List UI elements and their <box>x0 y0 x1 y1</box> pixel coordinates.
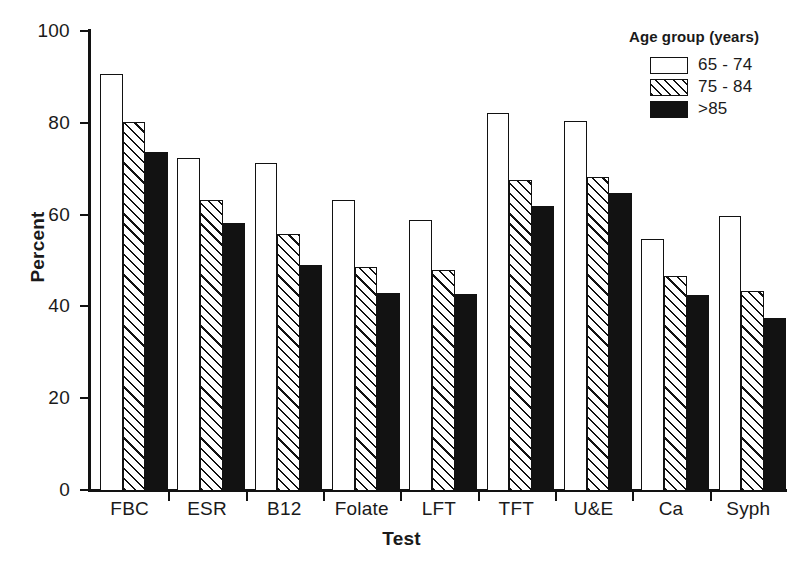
bar-fbc-series-0 <box>100 74 123 491</box>
bar-folate-series-2 <box>377 293 400 491</box>
legend-label: >85 <box>698 99 727 119</box>
bar-ue-series-0 <box>564 121 587 491</box>
bar-fbc-series-2 <box>145 152 168 491</box>
bar-ca-series-0 <box>641 239 664 491</box>
legend-label: 65 - 74 <box>698 55 752 75</box>
legend: Age group (years) 65 - 7475 - 84>85 <box>588 28 800 120</box>
x-tick-label-syph: Syph <box>688 498 803 520</box>
bar-folate-series-0 <box>332 200 355 491</box>
legend-item-2: >85 <box>650 98 800 120</box>
bar-esr-series-2 <box>223 223 246 491</box>
legend-item-1: 75 - 84 <box>650 76 800 98</box>
bar-esr-series-1 <box>200 200 223 491</box>
bar-ca-series-2 <box>687 295 710 491</box>
bar-lft-series-2 <box>455 294 478 491</box>
bar-tft-series-1 <box>509 180 532 491</box>
bar-esr-series-0 <box>177 158 200 491</box>
bar-syph-series-0 <box>719 216 742 491</box>
bar-syph-series-1 <box>741 291 764 491</box>
bar-folate-series-1 <box>355 267 378 491</box>
bar-b12-series-0 <box>255 163 278 491</box>
bar-ca-series-1 <box>664 276 687 491</box>
x-axis-label: Test <box>0 528 803 550</box>
bar-tft-series-2 <box>532 206 555 491</box>
legend-swatch-open <box>650 57 688 74</box>
bar-chart: Percent 020406080100 FBCESRB12FolateLFTT… <box>0 0 803 574</box>
legend-item-0: 65 - 74 <box>650 54 800 76</box>
bar-lft-series-0 <box>409 220 432 491</box>
legend-swatch-hatch <box>650 79 688 96</box>
legend-rows: 65 - 7475 - 84>85 <box>588 54 800 120</box>
legend-swatch-solid <box>650 101 688 118</box>
bar-tft-series-0 <box>487 113 510 491</box>
bar-b12-series-1 <box>277 234 300 491</box>
bar-lft-series-1 <box>432 270 455 491</box>
bar-b12-series-2 <box>300 265 323 491</box>
bar-syph-series-2 <box>764 318 787 492</box>
legend-label: 75 - 84 <box>698 77 752 97</box>
bar-ue-series-2 <box>609 193 632 491</box>
bar-fbc-series-1 <box>123 122 146 491</box>
legend-title: Age group (years) <box>588 28 800 45</box>
bar-ue-series-1 <box>587 177 610 491</box>
